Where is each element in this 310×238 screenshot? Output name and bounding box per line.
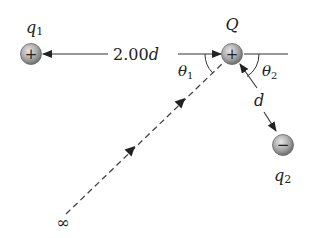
- theta1-arc: [205, 54, 213, 73]
- charge-q1: +: [21, 44, 42, 65]
- plus-sign-icon: +: [226, 45, 239, 63]
- charge-diagram: + q1 + Q − q2 2.00d θ1 θ2 d ∞: [0, 0, 310, 238]
- theta2-label: θ2: [262, 62, 277, 81]
- theta2-arc: [247, 54, 259, 77]
- distance-label: 2.00d: [113, 45, 159, 64]
- minus-sign-icon: −: [277, 136, 290, 154]
- theta1-label: θ1: [178, 62, 193, 81]
- q2-label: q2: [274, 166, 291, 186]
- plus-sign-icon: +: [25, 45, 38, 63]
- q1-label: q1: [26, 18, 43, 38]
- path-arrow-icon: [175, 94, 189, 108]
- dashed-path-from-infinity: [66, 63, 223, 214]
- charge-q2: −: [273, 135, 294, 156]
- Q-label: Q: [225, 15, 238, 34]
- charge-Q: +: [222, 44, 243, 65]
- infinity-label: ∞: [56, 213, 69, 232]
- d-label: d: [254, 91, 264, 110]
- path-arrow-icon: [125, 142, 139, 156]
